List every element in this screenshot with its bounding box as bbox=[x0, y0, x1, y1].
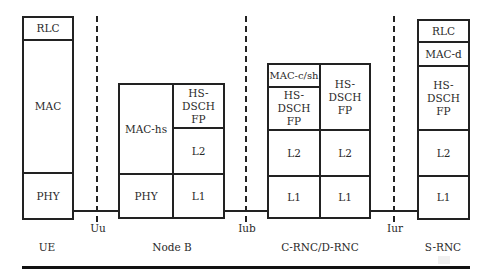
srnc-node-label: S-RNC bbox=[425, 241, 461, 253]
crnc-mac-csh-label: MAC-c/sh bbox=[269, 69, 318, 82]
nodeb-fp-label: HS-DSCH FP bbox=[176, 87, 222, 126]
srnc-fp-label: HS- DSCH FP bbox=[426, 79, 462, 118]
nodeb-l2-layer: L2 bbox=[172, 127, 225, 175]
crnc-fp-right-label: HS- DSCH FP bbox=[327, 78, 363, 117]
iub-interface-divider bbox=[245, 16, 247, 222]
ue-phy-label: PHY bbox=[36, 190, 59, 203]
ue-rlc-layer: RLC bbox=[22, 16, 74, 41]
crnc-l1-right-layer: L1 bbox=[319, 175, 371, 219]
nodeb-mac-hs-layer: MAC-hs bbox=[118, 83, 174, 175]
crnc-fp-left-label: HS- DSCH FP bbox=[276, 89, 312, 128]
uu-interface-label: Uu bbox=[90, 222, 106, 234]
srnc-l2-label: L2 bbox=[437, 147, 451, 160]
srnc-mac-d-label: MAC-d bbox=[425, 48, 462, 61]
srnc-hs-dsch-fp-layer: HS- DSCH FP bbox=[417, 65, 470, 131]
ue-node-label: UE bbox=[39, 241, 56, 253]
srnc-l1-label: L1 bbox=[437, 191, 451, 204]
ue-mac-layer: MAC bbox=[22, 39, 74, 174]
watermark bbox=[438, 256, 450, 264]
nodeb-l1-label: L1 bbox=[192, 190, 206, 203]
bottom-rule bbox=[22, 266, 470, 269]
nodeb-hs-dsch-fp-layer: HS-DSCH FP bbox=[172, 83, 225, 129]
srnc-l1-layer: L1 bbox=[417, 175, 470, 220]
crnc-node-label: C-RNC/D-RNC bbox=[281, 241, 359, 253]
iur-interface-divider bbox=[393, 16, 395, 222]
crnc-l2-left-label: L2 bbox=[287, 147, 301, 160]
srnc-mac-d-layer: MAC-d bbox=[417, 41, 470, 67]
uu-interface-divider bbox=[96, 16, 98, 222]
ue-rlc-label: RLC bbox=[37, 22, 60, 35]
crnc-hs-dsch-fp-left-layer: HS- DSCH FP bbox=[267, 86, 321, 131]
srnc-rlc-label: RLC bbox=[432, 25, 455, 38]
crnc-l2-right-label: L2 bbox=[338, 147, 352, 160]
crnc-l1-left-layer: L1 bbox=[267, 175, 321, 219]
crnc-hs-dsch-fp-right-layer: HS- DSCH FP bbox=[319, 63, 371, 131]
crnc-l2-right-layer: L2 bbox=[319, 129, 371, 177]
crnc-l1-right-label: L1 bbox=[338, 191, 352, 204]
crnc-mac-csh-layer: MAC-c/sh bbox=[267, 63, 321, 88]
nodeb-node-label: Node B bbox=[152, 241, 192, 253]
nodeb-l2-label: L2 bbox=[192, 145, 206, 158]
ue-mac-label: MAC bbox=[35, 100, 61, 113]
nodeb-phy-layer: PHY bbox=[118, 173, 174, 219]
nodeb-mac-hs-label: MAC-hs bbox=[125, 123, 167, 136]
iub-interface-label: Iub bbox=[238, 222, 256, 234]
crnc-l2-left-layer: L2 bbox=[267, 129, 321, 177]
nodeb-l1-layer: L1 bbox=[172, 173, 225, 219]
ue-phy-layer: PHY bbox=[22, 172, 74, 220]
iur-interface-label: Iur bbox=[387, 222, 403, 234]
nodeb-phy-label: PHY bbox=[134, 190, 157, 203]
crnc-l1-left-label: L1 bbox=[287, 191, 301, 204]
srnc-rlc-layer: RLC bbox=[417, 19, 470, 43]
srnc-l2-layer: L2 bbox=[417, 129, 470, 177]
